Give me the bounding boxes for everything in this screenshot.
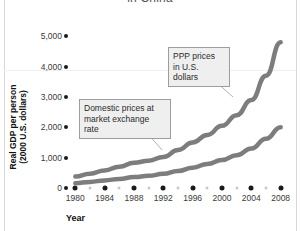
annotation-domestic-prices: Domestic prices at market exchange rate: [79, 99, 171, 139]
chart-figure: in China Real GDP per person (2000 U.S. …: [0, 0, 300, 231]
x-axis-title: Year: [66, 213, 85, 223]
annotation-layer: PPP prices in U.S. dollarsDomestic price…: [0, 0, 300, 231]
annotation-ppp-prices: PPP prices in U.S. dollars: [168, 47, 230, 87]
